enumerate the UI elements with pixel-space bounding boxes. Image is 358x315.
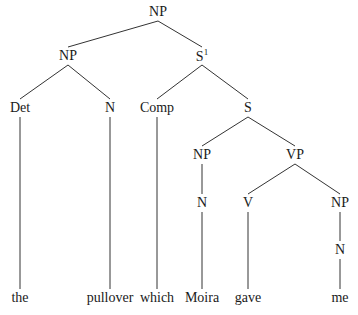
tree-node-n: N — [105, 101, 115, 115]
tree-node-v: V — [243, 196, 253, 210]
node-label: the — [11, 290, 28, 305]
tree-node-np: NP — [331, 196, 349, 210]
tree-node-np: NP — [59, 49, 77, 63]
tree-edge — [248, 117, 295, 146]
tree-edge — [68, 21, 158, 47]
tree-edge — [20, 65, 68, 99]
node-label: pullover — [87, 290, 134, 305]
leaf-word: Moira — [185, 291, 219, 305]
node-label: Comp — [140, 100, 174, 115]
tree-edge — [158, 21, 202, 47]
tree-edge — [295, 164, 340, 194]
node-label: S — [196, 49, 204, 64]
tree-edge — [202, 65, 248, 99]
tree-node-vp: VP — [286, 148, 304, 162]
leaf-word: pullover — [87, 291, 134, 305]
leaf-word: which — [140, 291, 174, 305]
leaf-word: gave — [235, 291, 261, 305]
tree-node-np: NP — [149, 5, 167, 19]
tree-edges — [0, 0, 358, 315]
node-superscript: 1 — [204, 47, 209, 57]
tree-edge — [202, 117, 248, 146]
node-label: V — [243, 195, 253, 210]
node-label: Det — [10, 100, 30, 115]
node-label: NP — [193, 147, 211, 162]
tree-node-s: S — [244, 101, 252, 115]
tree-node-s: S1 — [196, 48, 208, 64]
node-label: VP — [286, 147, 304, 162]
node-label: N — [335, 242, 345, 257]
leaf-word: me — [331, 291, 348, 305]
node-label: Moira — [185, 290, 219, 305]
tree-edge — [248, 164, 295, 194]
tree-node-comp: Comp — [140, 101, 174, 115]
tree-node-n: N — [335, 243, 345, 257]
tree-edge — [68, 65, 110, 99]
node-label: NP — [149, 4, 167, 19]
node-label: me — [331, 290, 348, 305]
tree-node-det: Det — [10, 101, 30, 115]
tree-node-np: NP — [193, 148, 211, 162]
node-label: which — [140, 290, 174, 305]
tree-node-n: N — [197, 196, 207, 210]
tree-edge — [157, 65, 202, 99]
node-label: NP — [331, 195, 349, 210]
leaf-word: the — [11, 291, 28, 305]
node-label: NP — [59, 48, 77, 63]
node-label: N — [105, 100, 115, 115]
node-label: S — [244, 100, 252, 115]
node-label: N — [197, 195, 207, 210]
node-label: gave — [235, 290, 261, 305]
